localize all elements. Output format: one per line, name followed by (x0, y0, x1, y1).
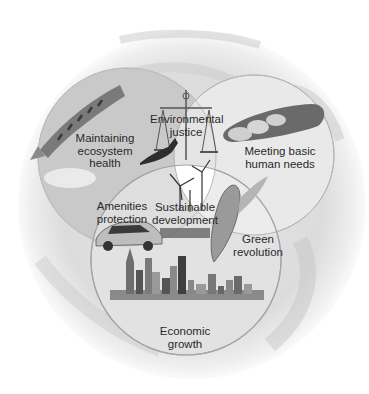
label-green-revolution: Green revolution (228, 233, 288, 258)
label-line: revolution (228, 246, 288, 259)
label-line: Amenities (92, 200, 152, 213)
label-environmental-justice: Environmental justice (150, 113, 222, 138)
label-line: protection (92, 213, 152, 226)
skyline-small-icon (160, 228, 210, 238)
label-line: health (70, 157, 140, 170)
label-line: human needs (240, 158, 320, 171)
label-line: Green (228, 233, 288, 246)
label-line: Economic (150, 325, 220, 338)
label-sustainable-development: Sustainable development (150, 201, 220, 226)
label-line: Maintaining (70, 132, 140, 145)
label-line: Sustainable (150, 201, 220, 214)
label-economic-growth: Economic growth (150, 325, 220, 350)
label-line: Environmental (150, 113, 222, 126)
label-amenities-protection: Amenities protection (92, 200, 152, 225)
label-line: ecosystem (70, 145, 140, 158)
label-line: growth (150, 338, 220, 351)
label-maintaining-ecosystem-health: Maintaining ecosystem health (70, 132, 140, 170)
label-line: development (150, 214, 220, 227)
label-line: justice (150, 126, 222, 139)
label-line: Meeting basic (240, 145, 320, 158)
label-meeting-basic-human-needs: Meeting basic human needs (240, 145, 320, 170)
